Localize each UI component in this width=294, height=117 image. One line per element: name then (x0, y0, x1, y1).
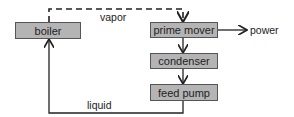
connector-lines (0, 0, 294, 117)
prime-mover-node: prime mover (150, 22, 218, 38)
boiler-node: boiler (15, 22, 81, 39)
condenser-node: condenser (150, 53, 218, 69)
power-label: power (250, 24, 279, 36)
feed-pump-node: feed pump (150, 84, 218, 101)
vapor-label: vapor (100, 11, 126, 23)
rankine-cycle-diagram: boiler prime mover condenser feed pump v… (0, 0, 294, 117)
liquid-label: liquid (87, 99, 112, 111)
